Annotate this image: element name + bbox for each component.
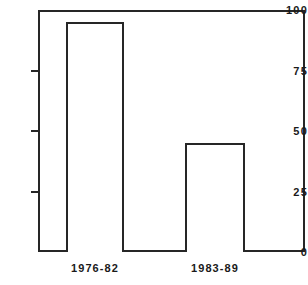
bar-chart: 100 75 50 25 0 1976-82 1983-89	[0, 0, 308, 285]
y-tick-mark-25	[31, 191, 39, 193]
y-tick-label-100: 100	[274, 5, 308, 16]
y-tick-label-75: 75	[274, 66, 308, 77]
x-tick-label-1983-89: 1983-89	[191, 262, 239, 275]
y-tick-label-0: 0	[274, 247, 308, 258]
x-tick-label-1976-82: 1976-82	[71, 262, 119, 275]
y-tick-mark-75	[31, 70, 39, 72]
bar-1983-89[interactable]	[185, 143, 245, 252]
y-tick-mark-50	[31, 130, 39, 132]
bar-1976-82[interactable]	[66, 22, 124, 252]
y-tick-label-25: 25	[274, 187, 308, 198]
y-tick-label-50: 50	[274, 126, 308, 137]
